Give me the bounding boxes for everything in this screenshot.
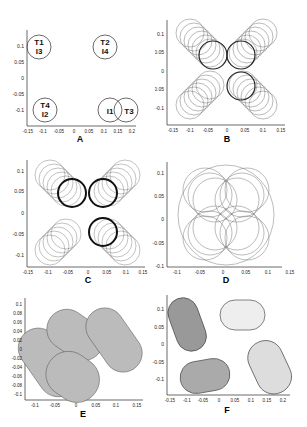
svg-text:0.2: 0.2 [129, 129, 136, 134]
svg-text:-0.05: -0.05 [50, 403, 61, 408]
svg-text:0.2: 0.2 [280, 398, 287, 403]
svg-text:-0.05: -0.05 [198, 398, 209, 403]
svg-text:0.15: 0.15 [133, 403, 142, 408]
svg-text:-0.15: -0.15 [165, 398, 176, 403]
svg-text:T2: T2 [100, 38, 110, 47]
svg-text:0.06: 0.06 [13, 320, 22, 325]
svg-text:0.05: 0.05 [154, 324, 164, 330]
svg-text:0: 0 [161, 341, 164, 347]
svg-text:0: 0 [218, 398, 221, 403]
svg-text:-0.04: -0.04 [12, 365, 23, 370]
panel-e-plot: 0.10.080.060.040.020-0.02-0.04-0.06-0.08… [0, 280, 155, 427]
svg-text:0.1: 0.1 [17, 43, 24, 49]
panel-d: 0.10.050-0.05-0.1 -0.1-0.0500.050.10.15 … [150, 140, 307, 285]
panel-b-plot: 0.10.050-0.05-0.1 -0.15-0.1-0.0500.050.1… [155, 0, 307, 145]
panel-f: 0.10.050-0.05-0.1 -0.15-0.1-0.0500.050.1… [150, 280, 307, 427]
svg-text:I2: I2 [42, 110, 49, 119]
svg-text:0.15: 0.15 [263, 398, 272, 403]
panel-a: 0.10.050-0.05-0.1 -0.15-0.1-0.0500.050.1… [0, 0, 155, 145]
svg-text:-0.1: -0.1 [15, 252, 24, 258]
svg-text:I3: I3 [36, 47, 43, 56]
svg-text:0.15: 0.15 [277, 128, 286, 133]
svg-text:-0.1: -0.1 [14, 392, 22, 397]
panel-d-plot: 0.10.050-0.05-0.1 -0.1-0.0500.050.10.15 … [150, 140, 307, 285]
svg-text:T4: T4 [40, 101, 50, 110]
svg-text:0: 0 [226, 128, 229, 133]
svg-text:0.1: 0.1 [17, 168, 24, 174]
svg-text:-0.1: -0.1 [15, 107, 24, 113]
svg-text:0.05: 0.05 [14, 59, 24, 65]
svg-text:-0.15: -0.15 [23, 129, 34, 134]
svg-text:-0.05: -0.05 [13, 91, 25, 97]
svg-text:0.05: 0.05 [155, 49, 164, 55]
svg-text:-0.05: -0.05 [63, 270, 74, 275]
svg-text:0: 0 [21, 210, 24, 216]
svg-text:0: 0 [75, 403, 78, 408]
svg-text:I4: I4 [102, 47, 109, 56]
panel-b: 0.10.050-0.05-0.1 -0.15-0.1-0.0500.050.1… [155, 0, 307, 145]
svg-text:0.05: 0.05 [85, 129, 94, 134]
svg-text:0.05: 0.05 [241, 128, 250, 133]
panel-c-plot: 0.10.050-0.05-0.1 -0.15-0.1-0.0500.050.1… [0, 140, 155, 285]
svg-text:-0.1: -0.1 [39, 129, 47, 134]
svg-text:-0.1: -0.1 [186, 128, 194, 133]
svg-text:-0.06: -0.06 [12, 374, 23, 379]
svg-text:0.05: 0.05 [92, 403, 101, 408]
svg-text:0.02: 0.02 [13, 338, 22, 343]
svg-text:0.08: 0.08 [13, 311, 22, 316]
svg-text:0.05: 0.05 [14, 188, 24, 194]
panel-a-plot: 0.10.050-0.05-0.1 -0.15-0.1-0.0500.050.1… [0, 0, 155, 145]
svg-text:0: 0 [161, 216, 164, 222]
svg-text:0.15: 0.15 [286, 270, 295, 275]
svg-text:-0.05: -0.05 [54, 129, 65, 134]
svg-text:0.05: 0.05 [154, 193, 164, 199]
svg-text:0: 0 [161, 68, 164, 74]
svg-text:0.05: 0.05 [231, 398, 240, 403]
svg-text:-0.08: -0.08 [12, 383, 23, 388]
svg-text:0: 0 [21, 75, 24, 81]
svg-text:T1: T1 [34, 38, 44, 47]
svg-text:-0.1: -0.1 [155, 105, 164, 111]
svg-text:0.1: 0.1 [16, 302, 23, 307]
svg-text:I1: I1 [107, 107, 114, 116]
svg-text:0.1: 0.1 [157, 31, 164, 37]
svg-text:0.1: 0.1 [101, 129, 108, 134]
svg-text:-0.1: -0.1 [31, 403, 39, 408]
svg-text:0.15: 0.15 [114, 129, 123, 134]
svg-text:0.1: 0.1 [265, 270, 272, 275]
svg-text:-0.05: -0.05 [155, 86, 164, 92]
svg-text:-0.05: -0.05 [153, 240, 165, 246]
svg-text:0.1: 0.1 [113, 403, 120, 408]
panel-f-plot: 0.10.050-0.05-0.1 -0.15-0.1-0.0500.050.1… [150, 280, 307, 427]
svg-text:-0.05: -0.05 [153, 359, 165, 365]
svg-text:0.15: 0.15 [139, 270, 148, 275]
svg-text:0.1: 0.1 [260, 128, 267, 133]
panel-c: 0.10.050-0.05-0.1 -0.15-0.1-0.0500.050.1… [0, 140, 155, 285]
svg-text:0.1: 0.1 [248, 398, 255, 403]
svg-text:0.1: 0.1 [157, 170, 164, 176]
svg-text:-0.05: -0.05 [195, 270, 206, 275]
svg-text:-0.15: -0.15 [23, 270, 34, 275]
svg-text:0.04: 0.04 [13, 329, 22, 334]
svg-text:-0.05: -0.05 [13, 231, 25, 237]
svg-text:-0.1: -0.1 [173, 270, 181, 275]
svg-text:-0.02: -0.02 [12, 356, 23, 361]
svg-text:0.1: 0.1 [157, 306, 164, 312]
svg-text:-0.1: -0.1 [155, 263, 164, 269]
svg-text:-0.1: -0.1 [44, 270, 52, 275]
svg-text:-0.15: -0.15 [168, 128, 179, 133]
svg-text:0: 0 [73, 129, 76, 134]
svg-text:E: E [80, 409, 86, 419]
svg-text:0.05: 0.05 [242, 270, 251, 275]
svg-text:-0.05: -0.05 [203, 128, 214, 133]
svg-text:0.05: 0.05 [103, 270, 112, 275]
svg-text:F: F [224, 405, 230, 415]
svg-text:-0.1: -0.1 [155, 376, 164, 382]
svg-text:T3: T3 [124, 107, 134, 116]
svg-text:0.1: 0.1 [123, 270, 130, 275]
panel-e: 0.10.080.060.040.020-0.02-0.04-0.06-0.08… [0, 280, 155, 427]
svg-text:-0.1: -0.1 [183, 398, 191, 403]
